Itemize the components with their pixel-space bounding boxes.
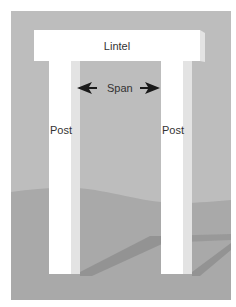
post-right-side — [183, 61, 192, 274]
lintel-side — [200, 30, 205, 62]
post-right-label: Post — [162, 125, 184, 136]
post-right-face — [161, 61, 183, 274]
lintel-label: Lintel — [34, 41, 200, 52]
post-left-side — [71, 61, 80, 274]
ground-plane — [11, 188, 231, 300]
diagram-canvas: Lintel Span Post Post — [0, 0, 236, 307]
post-left-label: Post — [50, 125, 72, 136]
post-left-face — [49, 61, 71, 274]
span-label: Span — [107, 83, 133, 94]
